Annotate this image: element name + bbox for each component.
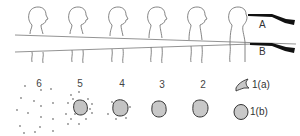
pattern-3-wound: [152, 101, 166, 117]
shot-label-b: B: [259, 47, 266, 57]
figure-silhouettes: [29, 7, 247, 63]
trajectory-line-b: [15, 44, 252, 52]
pattern-number-6: 6: [36, 79, 42, 89]
pattern-1b-wound: [234, 105, 248, 120]
pattern-4-wound: [107, 100, 131, 120]
pattern-number-4: 4: [119, 79, 125, 89]
pattern-number-3: 3: [159, 80, 165, 90]
figure-silhouette-6: [229, 7, 247, 62]
figure-silhouette-3: [109, 7, 128, 63]
trajectory-line-a: [15, 35, 296, 44]
gun-a-icon: [248, 14, 295, 25]
shot-label-a: A: [259, 20, 266, 30]
pattern-6-pellets: [16, 85, 54, 134]
pattern-2-wound: [193, 100, 208, 117]
pattern-label-1a: 1(a): [252, 80, 270, 90]
pattern-5-wound: [65, 91, 93, 125]
figure-silhouette-1: [29, 7, 48, 63]
figure-silhouette-2: [69, 7, 88, 63]
guns: [248, 14, 295, 53]
pattern-number-2: 2: [200, 80, 206, 90]
figure-silhouette-5: [188, 7, 207, 63]
figure-silhouette-4: [148, 7, 167, 63]
gun-b-icon: [250, 43, 295, 53]
pattern-number-5: 5: [77, 79, 83, 89]
pattern-label-1b: 1(b): [250, 107, 268, 117]
pattern-1a-wound: [236, 79, 249, 91]
